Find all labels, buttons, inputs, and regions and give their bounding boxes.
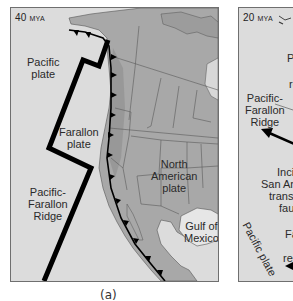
label-incipient-san-andreas-fault: Incipi San And transfo faul — [267, 166, 293, 214]
map-panel-20-mya: 20 MYA P re Pacific- Farallon Ridge Inci… — [238, 7, 293, 282]
age-label-40-mya: 40 MYA — [15, 12, 45, 23]
map-panel-40-mya: 40 MYA Pacific plate Farallon plate Paci… — [10, 7, 219, 282]
age-label-20-mya: 20 MYA — [243, 12, 273, 23]
label-pacific-plate: Pacific plate — [27, 56, 59, 80]
label-pacific-farallon-ridge-b: Pacific- Farallon Ridge — [245, 92, 285, 128]
label-farallon-plate: Farallon plate — [59, 126, 99, 150]
label-partial-p: P — [287, 52, 293, 64]
label-pacific-farallon-ridge: Pacific- Farallon Ridge — [28, 186, 68, 222]
arrow-northwest-icon — [261, 128, 293, 146]
label-partial-re: re — [289, 78, 293, 90]
figure-caption: (a) — [100, 288, 117, 301]
label-north-american-plate: North American plate — [151, 158, 197, 194]
label-farallon-remnant: Fa p ren — [279, 228, 293, 264]
label-gulf-of-mexico: Gulf of Mexico — [184, 220, 219, 244]
